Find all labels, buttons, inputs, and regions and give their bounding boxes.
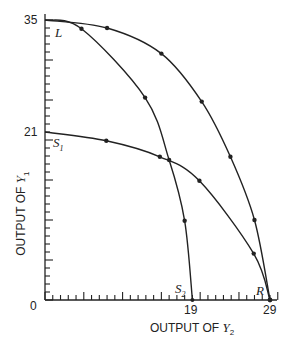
chart-plot <box>0 0 291 345</box>
data-point <box>159 51 163 55</box>
data-point <box>197 179 201 183</box>
y-tick-label-35: 35 <box>24 13 37 27</box>
data-point <box>143 95 147 99</box>
data-point <box>252 251 256 255</box>
point-label-R: R <box>256 283 264 299</box>
y-ticks <box>45 20 53 300</box>
y-tick-label-21: 21 <box>24 125 37 139</box>
data-point <box>228 155 232 159</box>
point-R <box>268 298 273 303</box>
data-point <box>105 26 109 30</box>
data-point <box>200 99 204 103</box>
point-label-S1: S1 <box>53 135 64 153</box>
x-tick-label-29: 29 <box>263 303 276 317</box>
curve-0 <box>45 20 270 300</box>
x-axis-title: OUTPUT OF Y2 <box>150 320 234 337</box>
x-tick-label-19: 19 <box>184 303 197 317</box>
data-point <box>158 155 162 159</box>
data-point <box>252 218 256 222</box>
data-point <box>182 219 186 223</box>
x-ticks <box>45 292 278 300</box>
data-point <box>167 158 171 162</box>
curves <box>45 20 270 300</box>
point-S2 <box>190 298 194 302</box>
point-label-L: L <box>55 25 62 41</box>
point-label-S2: S2 <box>175 281 186 299</box>
y-axis-title: OUTPUT OF Y1 <box>13 154 30 274</box>
data-point <box>79 27 83 31</box>
data-point <box>104 139 108 143</box>
origin-label: 0 <box>30 299 37 313</box>
curve-2 <box>45 132 270 300</box>
